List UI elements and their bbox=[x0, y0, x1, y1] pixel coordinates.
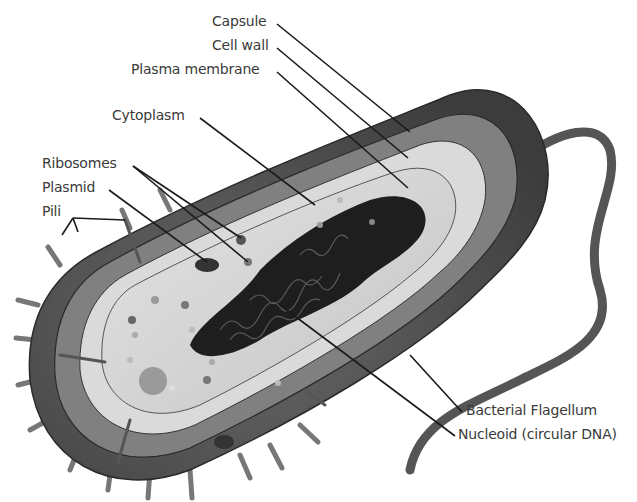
label-flagellum: Bacterial Flagellum bbox=[466, 402, 597, 418]
label-plasma-membrane: Plasma membrane bbox=[131, 61, 259, 77]
label-cytoplasm: Cytoplasm bbox=[112, 107, 185, 123]
label-nucleoid: Nucleoid (circular DNA) bbox=[458, 426, 617, 442]
label-ribosomes: Ribosomes bbox=[42, 155, 117, 171]
label-pili: Pili bbox=[42, 203, 61, 219]
label-plasmid: Plasmid bbox=[42, 179, 95, 195]
label-capsule: Capsule bbox=[212, 13, 267, 29]
plasmid bbox=[195, 258, 219, 272]
label-cell-wall: Cell wall bbox=[212, 37, 269, 53]
